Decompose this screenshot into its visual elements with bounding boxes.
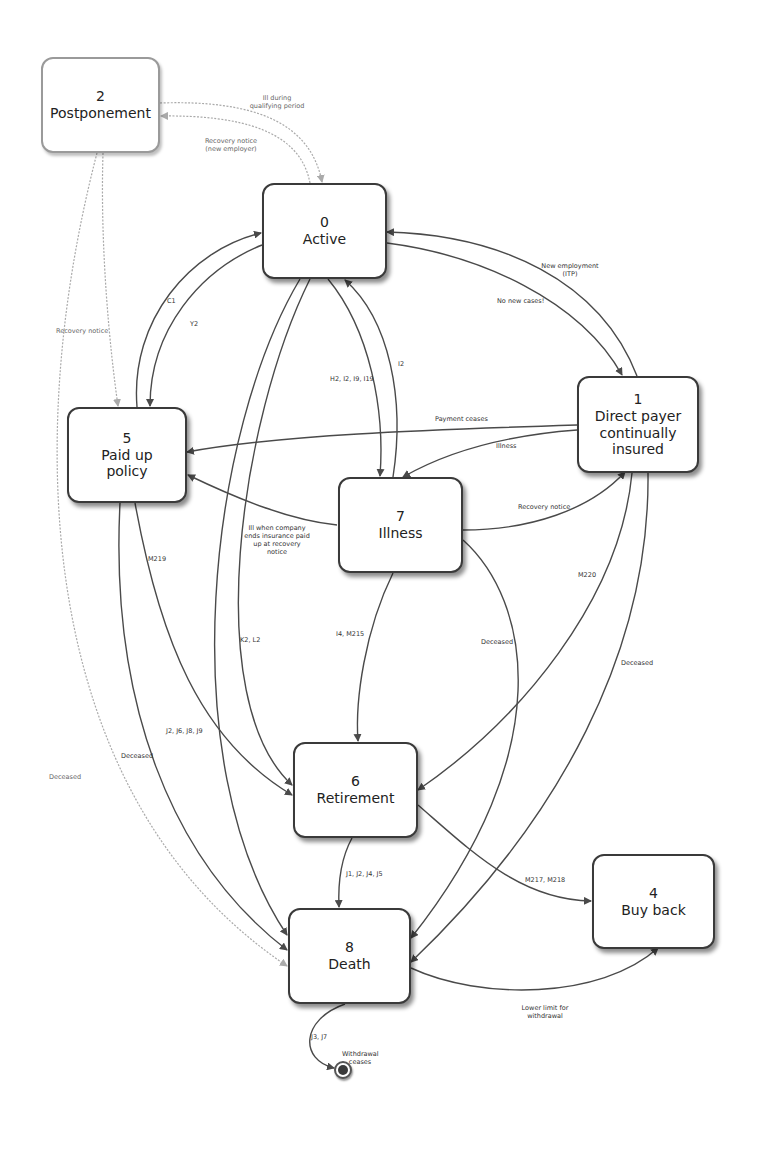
label-m220: M220 xyxy=(578,571,596,579)
label-illness: Illness xyxy=(496,442,516,450)
edge-7-8 xyxy=(411,540,518,938)
state-name: Direct payer continually insured xyxy=(588,408,688,458)
label-j3-j7: J3, J7 xyxy=(311,1033,327,1041)
edge-8-4 xyxy=(411,948,658,990)
state-number: 8 xyxy=(345,939,354,956)
state-name: Paid up policy xyxy=(92,447,162,481)
edge-2-5 xyxy=(102,153,118,406)
edge-7-1 xyxy=(463,472,625,530)
state-illness[interactable]: 7 Illness xyxy=(338,477,463,573)
state-name: Illness xyxy=(379,525,423,542)
label-k2-l2: K2, L2 xyxy=(240,636,260,644)
label-recovery-2-5: Recovery notice xyxy=(56,327,108,335)
label-deceased-5-8: Deceased xyxy=(121,752,153,760)
label-j1-j2-j4-j5: J1, J2, J4, J5 xyxy=(346,870,383,878)
state-name: Retirement xyxy=(317,790,395,807)
state-direct-payer[interactable]: 1 Direct payer continually insured xyxy=(577,376,699,473)
state-name: Active xyxy=(303,231,346,248)
state-postponement[interactable]: 2 Postponement xyxy=(41,57,160,153)
state-name: Postponement xyxy=(50,105,151,122)
label-y2: Y2 xyxy=(190,320,198,328)
label-c1: C1 xyxy=(167,297,176,305)
label-ill-company-ends: Ill when company ends insurance paid up … xyxy=(244,524,310,557)
label-deceased-1-8: Deceased xyxy=(621,659,653,667)
label-h2-i2-i9-i19: H2, I2, I9, I19 xyxy=(330,375,374,383)
state-number: 4 xyxy=(649,885,658,902)
label-recovery-7-1: Recovery notice xyxy=(518,503,570,511)
state-number: 2 xyxy=(96,88,105,105)
label-m217-m218: M217, M218 xyxy=(525,876,565,884)
label-withdrawal-ceases: Withdrawal ceases xyxy=(342,1050,378,1066)
edge-1-5 xyxy=(187,425,577,452)
state-number: 0 xyxy=(320,214,329,231)
state-number: 1 xyxy=(634,391,643,408)
state-diagram: 2 Postponement 0 Active 1 Direct payer c… xyxy=(0,0,758,1151)
label-deceased-2-8: Deceased xyxy=(49,773,81,781)
state-name: Buy back xyxy=(621,902,685,919)
label-payment-ceases: Payment ceases xyxy=(435,415,488,423)
edge-5-0 xyxy=(136,233,261,407)
edge-7-6 xyxy=(357,573,393,741)
label-deceased-7-8: Deceased xyxy=(481,638,513,646)
state-buy-back[interactable]: 4 Buy back xyxy=(592,854,715,949)
edge-0-5 xyxy=(150,245,262,406)
state-number: 7 xyxy=(396,508,405,525)
edge-6-4 xyxy=(418,805,591,901)
label-no-new-cases: No new cases! xyxy=(497,297,544,305)
label-i2: I2 xyxy=(398,360,404,368)
state-paid-up-policy[interactable]: 5 Paid up policy xyxy=(67,407,187,503)
edge-0-8 xyxy=(215,279,300,935)
state-name: Death xyxy=(328,956,370,973)
end-state-dot xyxy=(338,1065,348,1075)
label-new-employment: New employment (ITP) xyxy=(540,262,600,278)
state-number: 6 xyxy=(351,773,360,790)
label-j2-j6-j8-j9: J2, J6, J8, J9 xyxy=(166,727,203,735)
edge-2-8 xyxy=(57,153,287,966)
state-death[interactable]: 8 Death xyxy=(288,908,411,1004)
label-ill-qualifying: Ill during qualifying period xyxy=(248,94,306,110)
label-i4-m215: I4, M215 xyxy=(336,630,364,638)
label-lower-limit: Lower limit for withdrawal xyxy=(515,1004,575,1020)
state-active[interactable]: 0 Active xyxy=(262,183,387,279)
state-number: 5 xyxy=(123,430,132,447)
label-m219: M219 xyxy=(148,555,166,563)
edge-1-7 xyxy=(403,430,577,477)
label-recovery-new-employer: Recovery notice (new employer) xyxy=(200,137,262,153)
edge-7-5 xyxy=(188,475,337,525)
state-retirement[interactable]: 6 Retirement xyxy=(293,742,418,838)
